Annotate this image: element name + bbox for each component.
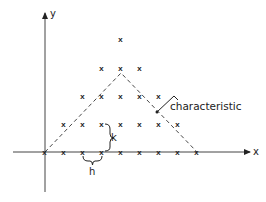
grid-point: x: [175, 120, 180, 129]
grid-point: x: [156, 92, 161, 101]
k-label: k: [111, 132, 117, 143]
characteristic-triangle-diagram: y x x x x x x x x x x x x x x x x x x x …: [0, 0, 266, 202]
grid-point: x: [99, 92, 104, 101]
h-label: h: [89, 166, 95, 177]
grid-point: x: [175, 148, 180, 157]
grid-point: x: [118, 120, 123, 129]
annotation-label: characteristic: [170, 100, 242, 112]
grid-point: x: [80, 148, 85, 157]
grid-point: x: [99, 120, 104, 129]
grid-point: x: [99, 64, 104, 73]
h-brace: [83, 156, 102, 165]
grid-point: x: [118, 35, 123, 44]
grid-point: x: [118, 92, 123, 101]
grid-point: x: [61, 120, 66, 129]
grid-point: x: [156, 148, 161, 157]
annotation-point: [156, 111, 159, 114]
y-axis-label: y: [50, 8, 56, 19]
x-axis-label: x: [253, 146, 259, 157]
grid-point: x: [137, 148, 142, 157]
grid-point: x: [42, 148, 47, 157]
grid-point: x: [118, 148, 123, 157]
grid-point: x: [194, 148, 199, 157]
grid-point: x: [137, 92, 142, 101]
grid-point: x: [99, 148, 104, 157]
grid-point: x: [118, 64, 123, 73]
grid-points: x x x x x x x x x x x x x x x x x x x x …: [42, 35, 199, 157]
grid-point: x: [80, 120, 85, 129]
grid-point: x: [61, 148, 66, 157]
grid-point: x: [80, 92, 85, 101]
characteristic-lines: [45, 73, 197, 152]
grid-point: x: [137, 120, 142, 129]
grid-point: x: [137, 64, 142, 73]
grid-point: x: [156, 120, 161, 129]
